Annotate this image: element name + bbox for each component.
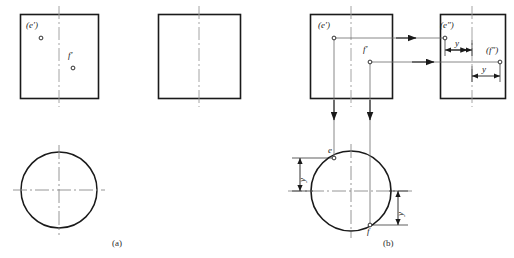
- label-e-top-b: e: [328, 145, 332, 155]
- label-f-double-prime-b: (f″): [486, 45, 498, 55]
- dim-label-y-top-e: y: [297, 178, 307, 182]
- label-e-prime-a: (e′): [26, 20, 38, 30]
- label-f-prime-b: f′: [363, 44, 367, 54]
- point-e-prime-a: [39, 36, 43, 40]
- dim-y-side-f-arrow-right: [494, 73, 500, 78]
- dim-y-top-e-arrow-up: [297, 158, 302, 164]
- drawing-canvas: [0, 0, 514, 258]
- dim-y-side-e-arrow-left: [445, 47, 451, 52]
- dim-label-y-side-f: y: [482, 64, 486, 74]
- label-f-top-b: f: [367, 226, 370, 236]
- label-e-prime-b: (e′): [318, 20, 330, 30]
- dim-y-top-f-arrow-up: [395, 191, 400, 197]
- engineering-drawing-figure: (e′) f′ (e′) f′ (e″) (f″) e f y y y y (a…: [0, 0, 514, 258]
- dim-y-top-e-arrow-down: [297, 185, 302, 191]
- point-f-dprime-b: [498, 60, 502, 64]
- point-e-dprime-b: [443, 36, 447, 40]
- label-e-double-prime-b: (e″): [440, 20, 454, 30]
- dim-y-side-e-arrow-right: [466, 47, 472, 52]
- point-f-prime-a: [71, 66, 75, 70]
- caption-a: (a): [112, 238, 122, 248]
- dim-label-y-side-e: y: [455, 38, 459, 48]
- dim-y-side-f-arrow-left: [472, 73, 478, 78]
- panel-a-group: [13, 6, 241, 235]
- label-f-prime-a: f′: [68, 50, 72, 60]
- dim-label-y-top-f: y: [395, 212, 405, 216]
- point-f-prime-b: [368, 60, 372, 64]
- panel-b-group: [288, 6, 506, 238]
- point-e-top-b: [332, 156, 336, 160]
- caption-b: (b): [383, 238, 394, 248]
- side-view-rect-a: [159, 15, 241, 99]
- dim-y-top-f-arrow-down: [395, 219, 400, 225]
- point-e-prime-b: [332, 36, 336, 40]
